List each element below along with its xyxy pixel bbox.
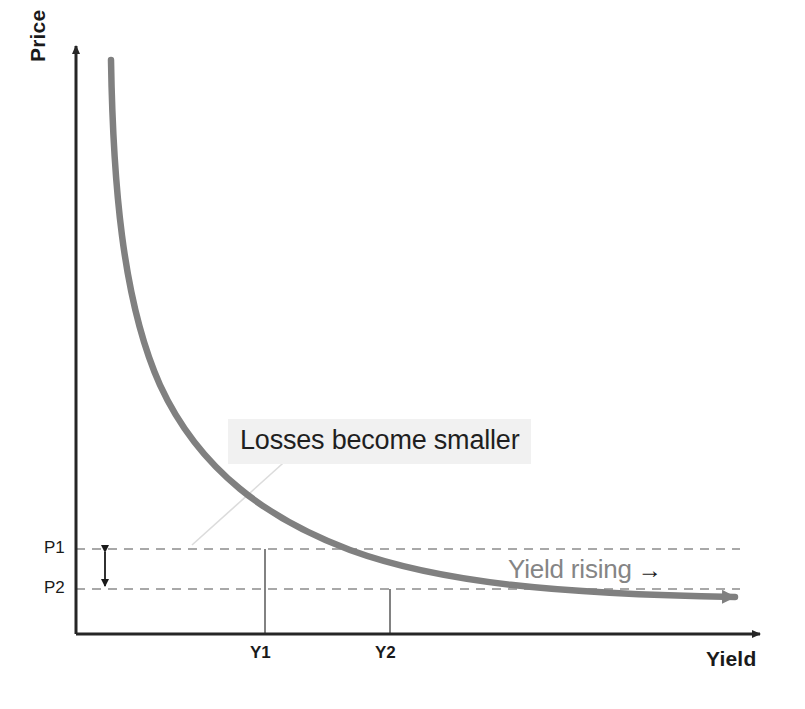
y-axis-label: Price xyxy=(27,10,48,62)
price-yield-chart: Price Yield P1 P2 Y1 Y2 Losses become sm… xyxy=(0,0,805,709)
yield-tick-label-y2: Y2 xyxy=(375,644,396,661)
price-tick-label-p1: P1 xyxy=(44,539,65,556)
right-arrow-icon: → xyxy=(632,556,662,583)
chart-canvas xyxy=(0,0,805,709)
price-tick-label-p2: P2 xyxy=(44,579,65,596)
annotation-leader-line xyxy=(192,456,291,545)
annotation-losses-become-smaller: Losses become smaller xyxy=(228,419,531,464)
annotation-yield-rising-text: Yield rising xyxy=(508,554,632,584)
x-axis-label: Yield xyxy=(706,648,756,669)
yield-tick-label-y1: Y1 xyxy=(250,644,271,661)
annotation-yield-rising: Yield rising→ xyxy=(508,556,662,582)
price-yield-curve xyxy=(111,60,735,597)
